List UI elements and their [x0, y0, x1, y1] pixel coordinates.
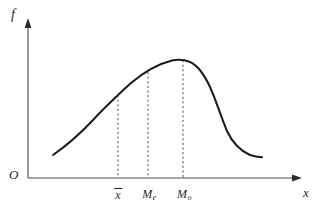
plot-area	[0, 0, 320, 219]
mean-symbol: x	[115, 188, 120, 201]
mode-symbol-base: M	[177, 187, 187, 201]
density-curve	[53, 60, 262, 157]
tick-label-mode: Mo	[177, 188, 191, 200]
y-axis-label: f	[11, 8, 15, 22]
median-symbol-base: M	[142, 187, 152, 201]
tick-label-mean: x	[115, 188, 120, 201]
x-axis-label: x	[303, 186, 309, 199]
median-symbol-subscript: e	[153, 193, 157, 202]
drop-lines-group	[118, 60, 183, 178]
origin-label: O	[9, 168, 18, 181]
distribution-figure: f O x x Me Mo	[0, 0, 320, 219]
tick-label-median: Me	[142, 188, 156, 200]
mode-symbol-subscript: o	[187, 193, 191, 202]
x-axis-arrowhead	[292, 175, 302, 182]
y-axis-arrowhead	[25, 18, 32, 28]
